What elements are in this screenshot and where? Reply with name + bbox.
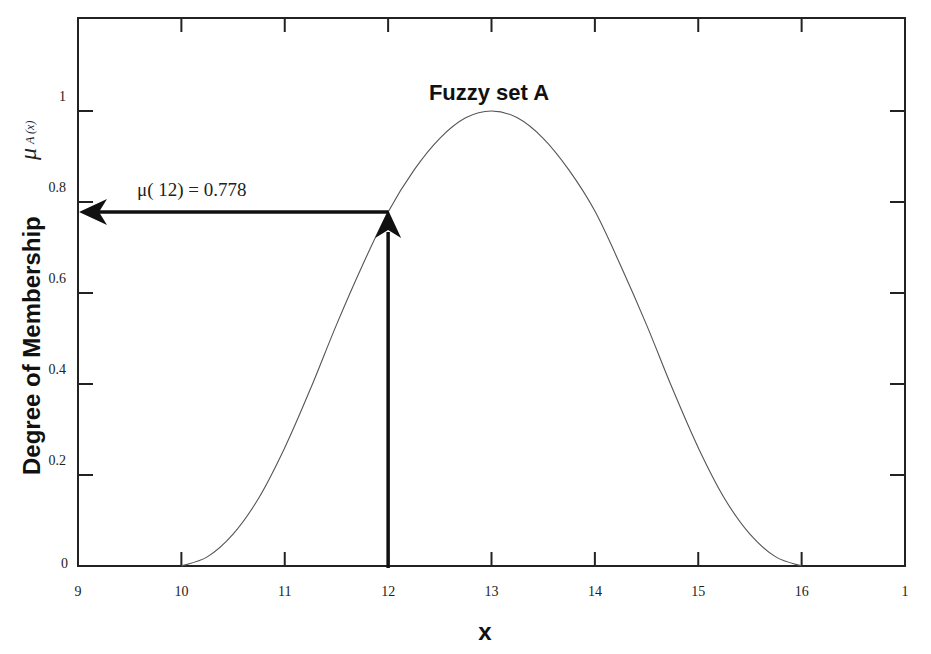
chart-canvas: 910111213141516100.20.40.60.81 Fuzzy set… [0, 0, 931, 654]
x-axis-label: x [478, 618, 492, 645]
axis-tick-labels: 910111213141516100.20.40.60.81 [49, 89, 909, 599]
x-tick-label: 12 [381, 584, 395, 599]
y-tick-label: 0.8 [49, 180, 67, 195]
y-axis-symbol: μ A (x) [15, 121, 41, 161]
x-tick-label: 11 [278, 584, 291, 599]
chart-title: Fuzzy set A [429, 80, 549, 105]
y-tick-label: 1 [59, 89, 66, 104]
y-tick-label: 0.2 [49, 453, 67, 468]
y-tick-label: 0 [61, 556, 68, 571]
x-tick-label: 10 [174, 584, 188, 599]
annotation-label: μ( 12) = 0.778 [137, 179, 247, 201]
y-tick-label: 0.6 [49, 271, 67, 286]
x-tick-label: 14 [588, 584, 602, 599]
mu-symbol: μ [15, 148, 41, 161]
y-tick-label: 0.4 [49, 362, 67, 377]
mu-subscript: A (x) [23, 121, 37, 145]
membership-function-chart: 910111213141516100.20.40.60.81 Fuzzy set… [0, 0, 931, 654]
x-tick-label: 9 [75, 584, 82, 599]
x-tick-label: 15 [691, 584, 705, 599]
annotation-arrows [79, 199, 401, 568]
x-tick-label: 16 [795, 584, 809, 599]
y-axis-label: Degree of Membership [18, 216, 45, 475]
membership-curve [181, 111, 801, 566]
x-tick-label: 13 [485, 584, 499, 599]
x-tick-label: 1 [902, 584, 909, 599]
